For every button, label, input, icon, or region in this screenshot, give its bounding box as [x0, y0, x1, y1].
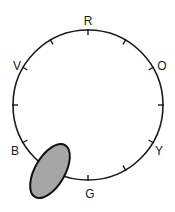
pointer-ellipse — [22, 138, 78, 205]
label-r: R — [84, 14, 93, 28]
label-v: V — [13, 59, 21, 73]
label-b: B — [11, 144, 19, 158]
label-y: Y — [155, 144, 163, 158]
label-g: G — [85, 187, 94, 201]
dial-circle — [13, 30, 163, 180]
color-dial-diagram: R O Y G B V — [0, 0, 175, 212]
label-o: O — [157, 59, 166, 73]
